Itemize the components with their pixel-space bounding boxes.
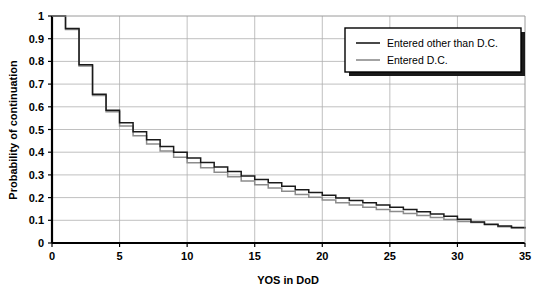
y-tick-label: 0.3: [29, 169, 44, 181]
y-tick-label: 0.5: [29, 124, 44, 136]
y-tick-label: 0: [38, 237, 44, 249]
y-tick-label: 0.1: [29, 214, 44, 226]
y-tick-label: 0.8: [29, 55, 44, 67]
y-tick-label: 0.6: [29, 101, 44, 113]
y-axis-tick-labels: 00.10.20.30.40.50.60.70.80.91: [29, 10, 45, 249]
y-tick-label: 0.9: [29, 33, 44, 45]
x-tick-label: 15: [249, 250, 261, 262]
x-tick-label: 20: [316, 250, 328, 262]
x-tick-label: 10: [181, 250, 193, 262]
chart-canvas: 05101520253035 00.10.20.30.40.50.60.70.8…: [0, 0, 540, 294]
y-tick-label: 0.7: [29, 78, 44, 90]
y-tick-label: 1: [38, 10, 44, 22]
x-axis-tick-labels: 05101520253035: [49, 250, 531, 262]
x-axis-title: YOS in DoD: [257, 274, 319, 286]
x-tick-label: 5: [117, 250, 123, 262]
x-tick-label: 35: [519, 250, 531, 262]
y-tick-label: 0.4: [29, 146, 45, 158]
y-tick-label: 0.2: [29, 192, 44, 204]
x-tick-label: 30: [451, 250, 463, 262]
x-tick-label: 0: [49, 250, 55, 262]
legend: Entered other than D.C. Entered D.C.: [345, 28, 525, 76]
chart-figure: 05101520253035 00.10.20.30.40.50.60.70.8…: [0, 0, 540, 294]
legend-label-entered-dc: Entered D.C.: [387, 54, 448, 66]
legend-label-entered-other-than-dc: Entered other than D.C.: [387, 37, 498, 49]
y-axis-title: Probability of continuation: [7, 60, 19, 200]
x-tick-label: 25: [384, 250, 396, 262]
